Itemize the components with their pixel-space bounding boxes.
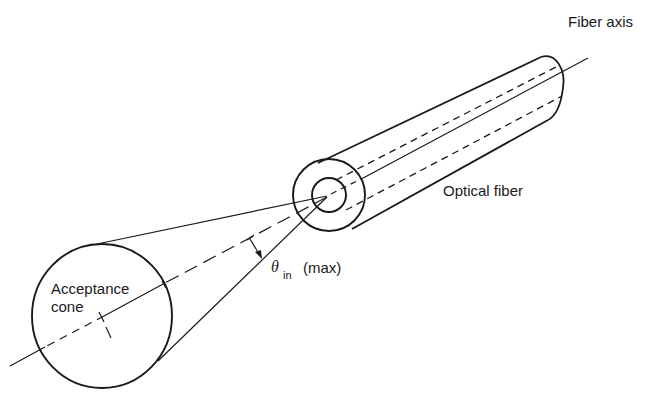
cylinder-bottom-edge	[352, 120, 548, 229]
acceptance-cone-diagram: Fiber axis Optical fiber Acceptance cone…	[0, 0, 657, 409]
acceptance-label-line1: Acceptance	[51, 280, 129, 297]
cone-axis-outer-segment	[10, 347, 45, 366]
cone-base-circle	[32, 244, 172, 388]
cone-upper-edge	[97, 196, 327, 244]
center-tick-dash	[106, 327, 111, 338]
cone-axis-inner-dashed	[45, 316, 104, 347]
arrow-head-icon	[255, 250, 262, 259]
theta-subscript: in	[283, 269, 292, 281]
theta-qualifier: (max)	[303, 259, 341, 276]
cone-lower-edge	[158, 197, 327, 361]
fiber-axis-label: Fiber axis	[568, 13, 633, 30]
cylinder-end-cap	[541, 56, 564, 120]
fiber-axis	[331, 58, 588, 194]
acceptance-label-line2: cone	[51, 298, 84, 315]
cylinder-top-edge	[318, 57, 541, 163]
theta-symbol: θ	[271, 258, 279, 275]
optical-fiber-label: Optical fiber	[443, 182, 523, 199]
core-upper-dashed-line	[336, 66, 558, 180]
theta-angle-marker	[247, 235, 262, 259]
